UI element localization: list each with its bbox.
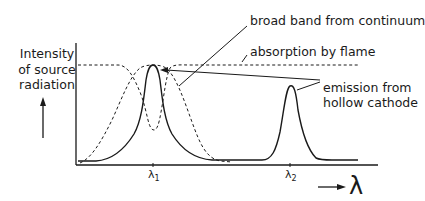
annotation-broad-band: broad band from continuum <box>250 13 425 28</box>
x-axis-symbol: λ <box>349 174 363 198</box>
tick-label-lambda1-subscript: 1 <box>155 174 160 183</box>
tick-label-lambda1: λ1 <box>148 168 160 183</box>
y-axis-label: Intensity of source radiation <box>18 46 76 93</box>
y-axis-label-line3: radiation <box>18 77 76 93</box>
absorption-curve <box>80 65 232 163</box>
tick-label-lambda2: λ2 <box>285 168 297 183</box>
leader-emission-lambda2 <box>297 82 320 90</box>
right-arrow-icon <box>318 184 346 190</box>
tick-label-lambda2-subscript: 2 <box>292 174 297 183</box>
annotation-absorption: absorption by flame <box>250 44 375 59</box>
y-axis-label-line2: of source <box>18 62 76 78</box>
leader-broad-band <box>179 26 247 86</box>
annotation-emission-line1: emission from <box>323 80 411 95</box>
leader-emission-arrow <box>160 67 320 80</box>
up-arrow-icon <box>40 97 46 138</box>
annotation-emission-line2: hollow cathode <box>323 95 418 110</box>
y-axis-label-line1: Intensity <box>18 46 76 62</box>
leader-absorption <box>242 55 247 62</box>
continuum-curve <box>78 65 360 130</box>
